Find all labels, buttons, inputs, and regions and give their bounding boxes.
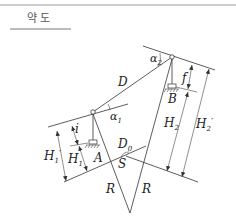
label-h2-prime: H2′ <box>195 116 214 133</box>
label-b: B <box>167 92 177 106</box>
label-i: i <box>75 122 79 136</box>
diagram-frame: 약 도 <box>0 0 236 224</box>
b-level-tick <box>176 87 197 92</box>
label-s: S <box>118 157 126 171</box>
label-h2: H2 <box>163 116 179 132</box>
point-b-top <box>170 55 174 59</box>
support-block-b <box>168 84 176 88</box>
support-hatch-a <box>85 145 99 148</box>
support-block-a <box>89 140 97 144</box>
lower-line-b <box>126 156 198 182</box>
label-r-right: R <box>141 182 151 196</box>
label-h1: H1 <box>67 152 83 168</box>
label-a: A <box>93 151 103 165</box>
label-r-left: R <box>105 182 115 196</box>
label-h1-prime: H1′ <box>43 148 62 165</box>
survey-sketch-diagram: 약 도 <box>0 0 236 224</box>
point-a-top <box>91 110 95 114</box>
a-level-tick <box>70 143 88 146</box>
label-d: D <box>117 75 128 89</box>
dim-f <box>188 65 192 89</box>
label-alpha1: α1 <box>110 110 122 125</box>
label-d0: D0 <box>117 137 133 153</box>
title-text: 약 도 <box>27 11 51 25</box>
label-f: f <box>181 71 189 85</box>
